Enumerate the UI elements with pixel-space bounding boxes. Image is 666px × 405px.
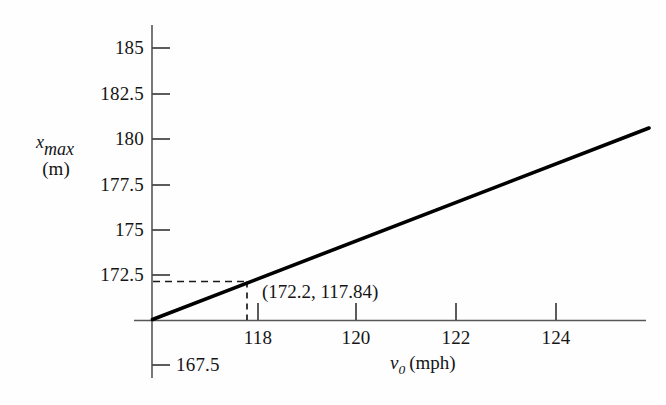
- x-tick-label-120: 120: [326, 328, 386, 347]
- chart-figure: 185 182.5 180 177.5 175 172.5 167.5 118 …: [0, 0, 666, 405]
- x-axis-label: v0(mph): [390, 352, 456, 374]
- x-axis-ticks: [258, 303, 556, 320]
- point-annotation-label: (172.2, 117.84): [262, 281, 378, 303]
- data-line-series-1: [153, 128, 650, 320]
- x-tick-label-122: 122: [426, 328, 486, 347]
- y-axis-label: xmax (m): [14, 136, 94, 179]
- y-axis-label-unit: (m): [14, 158, 94, 179]
- x-tick-label-118: 118: [228, 328, 288, 347]
- x-axis-label-subscript: 0: [398, 362, 405, 377]
- x-tick-label-124: 124: [526, 328, 586, 347]
- y-tick-label-182-5: 182.5: [56, 84, 144, 103]
- y-tick-label-167-5: 167.5: [176, 355, 220, 374]
- y-axis-label-subscript: max: [44, 139, 74, 159]
- y-tick-label-185: 185: [56, 38, 144, 57]
- y-tick-label-175: 175: [56, 220, 144, 239]
- y-axis-label-variable: x: [36, 132, 44, 152]
- x-axis-label-unit: (mph): [405, 352, 455, 373]
- y-tick-label-172-5: 172.5: [56, 265, 144, 284]
